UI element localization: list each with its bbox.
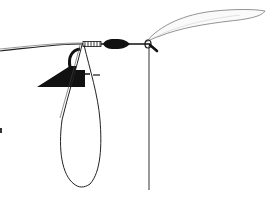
loop <box>60 45 101 187</box>
knot-diagram <box>0 0 277 213</box>
diagram-canvas <box>0 0 277 213</box>
feather-wing <box>146 10 265 43</box>
wraps <box>83 42 101 47</box>
edge-mark <box>0 128 2 133</box>
black-body <box>103 39 130 49</box>
tool <box>37 49 100 87</box>
